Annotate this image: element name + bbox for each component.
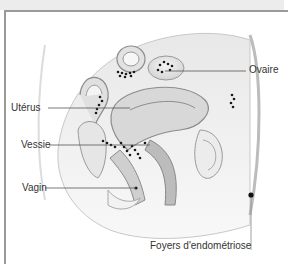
label-ovary: Ovaire [249,64,278,75]
ovary [148,56,184,80]
legend-endometriosis: Foyers d'endométriose [150,240,251,251]
label-uterus: Utérus [11,102,40,113]
label-bladder: Vessie [21,139,50,150]
label-vagina: Vagin [22,182,47,193]
legend-dot-icon [248,192,253,197]
